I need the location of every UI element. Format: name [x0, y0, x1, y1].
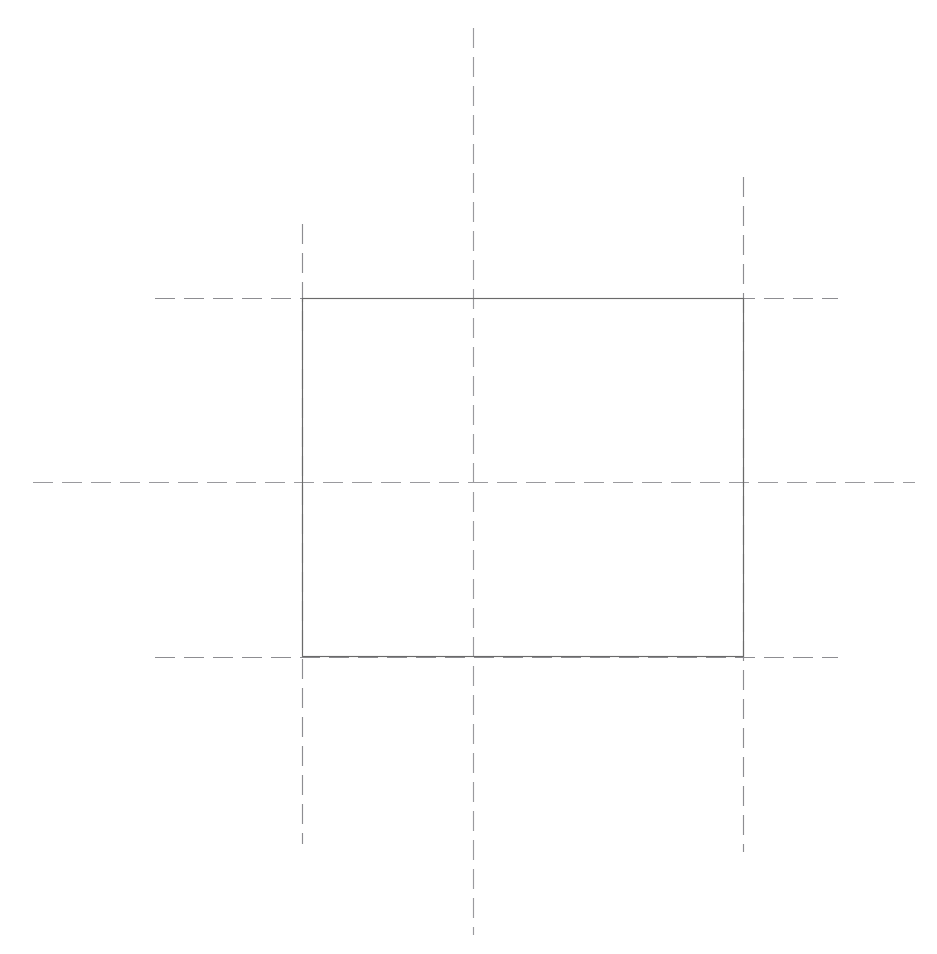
canvas-background: [0, 0, 937, 954]
drawing-canvas: [0, 0, 937, 954]
drawing-svg: [0, 0, 937, 954]
